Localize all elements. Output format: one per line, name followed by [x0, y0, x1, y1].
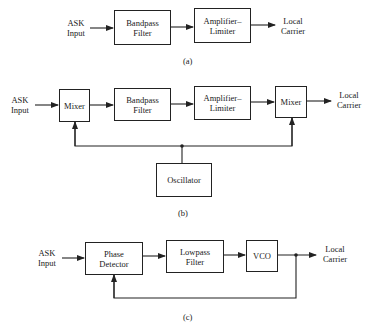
amplifier-limiter-block-b: Amplifier–Limiter: [194, 86, 251, 120]
caption-a: (a): [183, 56, 192, 66]
amplifier-limiter-block-a: Amplifier–Limiter: [194, 8, 251, 43]
local-carrier-label-b: Local Carrier: [332, 90, 366, 110]
ask-input-label-b: ASK Input: [5, 95, 35, 115]
mixer-1-block: Mixer: [59, 89, 90, 122]
lowpass-filter-block: LowpassFilter: [166, 240, 224, 273]
local-carrier-label-a: Local Carrier: [276, 16, 310, 36]
bandpass-filter-block-b: BandpassFilter: [114, 88, 171, 121]
caption-b: (b): [178, 208, 188, 218]
bandpass-filter-block-a: BandpassFilter: [114, 10, 171, 45]
oscillator-block: Oscillator: [156, 163, 212, 197]
vco-block: VCO: [246, 240, 278, 272]
ask-input-label-a: ASK Input: [62, 18, 90, 38]
mixer-2-block: Mixer: [275, 86, 307, 118]
ask-input-label-c: ASK Input: [32, 248, 62, 268]
local-carrier-label-c: Local Carrier: [318, 244, 352, 264]
phase-detector-block: PhaseDetector: [85, 242, 143, 275]
caption-c: (c): [183, 312, 192, 322]
